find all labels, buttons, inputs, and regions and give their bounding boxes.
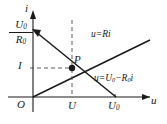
y-tick-label-I: I: [18, 60, 22, 71]
x-axis-arrowhead: [142, 94, 150, 100]
origin-label: O: [17, 99, 25, 110]
iv-characteristic-figure: i u O U0 R0 I U U0 P u=Ri u=U0−R0i: [0, 0, 167, 124]
fraction-numerator: U0: [9, 19, 33, 32]
x-axis-label: u: [151, 95, 157, 106]
fraction-denominator: R0: [9, 34, 33, 47]
y-axis-label: i: [25, 3, 28, 14]
y-tick-label-u0-over-r0: U0 R0: [9, 19, 33, 46]
x-tick-label-U: U: [68, 100, 76, 111]
intersection-point-P: [69, 65, 75, 71]
device-line-curve: [33, 40, 150, 97]
x-tick-label-U0: U0: [108, 100, 120, 113]
point-label-P: P: [74, 54, 81, 65]
y-axis-arrowhead: [30, 10, 36, 19]
load-line-equation-label: u=U0−R0i: [94, 74, 133, 84]
device-line-equation-label: u=Ri: [91, 30, 111, 40]
